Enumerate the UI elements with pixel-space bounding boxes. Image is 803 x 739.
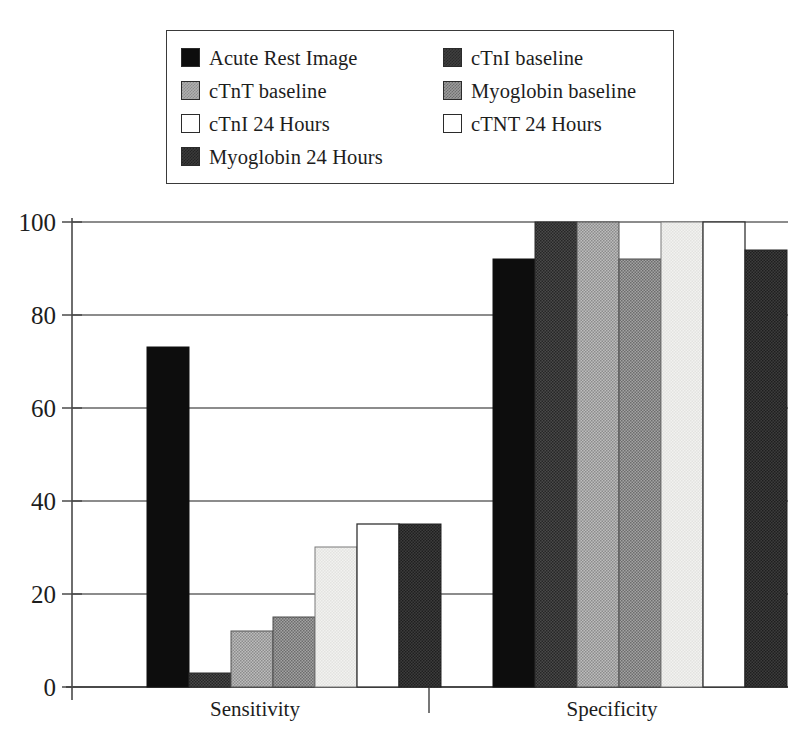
y-tick-label-0: 0 <box>44 674 57 701</box>
bar-specificity-ctni-baseline <box>535 222 577 687</box>
y-tick-label-100: 100 <box>19 209 57 236</box>
bar-sensitivity-myoglobin-baseline <box>273 617 315 687</box>
plot-area: 100 80 60 40 20 0 <box>0 0 803 739</box>
bar-sensitivity-ctni-baseline <box>189 673 231 687</box>
bar-specificity-acute-rest-image <box>493 259 535 687</box>
bar-sensitivity-ctnt-24-hours <box>357 524 399 687</box>
y-tick-label-40: 40 <box>31 488 56 515</box>
y-tick-label-80: 80 <box>31 302 56 329</box>
bar-specificity-ctni-24-hours <box>661 222 703 687</box>
y-tick-label-60: 60 <box>31 395 56 422</box>
bar-specificity-ctnt-24-hours <box>703 222 745 687</box>
bar-sensitivity-ctnt-baseline <box>231 631 273 687</box>
bar-group-sensitivity <box>147 347 441 687</box>
bar-sensitivity-acute-rest-image <box>147 347 189 687</box>
bar-specificity-ctnt-baseline <box>577 222 619 687</box>
x-category-label-specificity: Specificity <box>567 697 658 721</box>
bar-sensitivity-ctni-24-hours <box>315 547 357 687</box>
y-tick-label-20: 20 <box>31 581 56 608</box>
bar-group-specificity <box>493 222 787 687</box>
bar-specificity-myoglobin-24-hours <box>745 250 787 687</box>
x-category-label-sensitivity: Sensitivity <box>210 697 300 721</box>
bar-chart-figure: Acute Rest Image cTnI baseline cTnT base… <box>0 0 803 739</box>
bar-sensitivity-myoglobin-24-hours <box>399 524 441 687</box>
bar-specificity-myoglobin-baseline <box>619 259 661 687</box>
